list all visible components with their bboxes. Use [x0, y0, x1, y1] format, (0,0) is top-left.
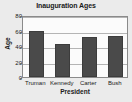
x-tick-label-bush: Bush [102, 79, 129, 87]
y-tick-label: 80 [2, 13, 22, 19]
y-axis: Age 020406080 [0, 0, 22, 102]
plot-area [22, 16, 128, 78]
bar-series [23, 17, 127, 77]
y-tick-label: 20 [2, 60, 22, 66]
x-axis-title: President [22, 88, 128, 96]
bar-carter [82, 37, 97, 77]
bar-kennedy [55, 44, 70, 77]
y-tick-label: 60 [2, 29, 22, 35]
x-tick-label-carter: Carter [75, 79, 102, 87]
bar-bush [108, 36, 123, 77]
x-tick-label-truman: Truman [22, 79, 49, 87]
x-tick-label-kennedy: Kennedy [49, 79, 76, 87]
bar-chart-screenshot: Inauguration Ages Age 020406080 TrumanKe… [0, 0, 132, 102]
y-tick-label: 0 [2, 75, 22, 81]
y-tick-label: 40 [2, 44, 22, 50]
bar-truman [29, 31, 44, 78]
